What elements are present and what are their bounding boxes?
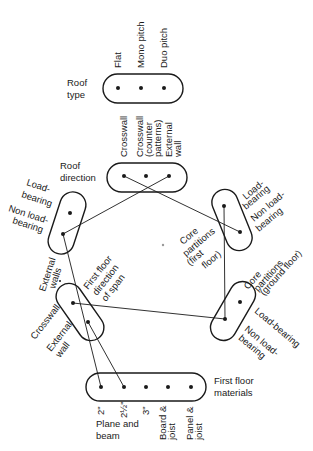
compatibility-diagram: Flat Mono pitch Duo pitch Roof type Cros… [0,0,313,451]
option-dot-non-load-bearing [223,317,227,321]
materials-option-2half-in: 2½" [118,401,129,418]
option-dot-flat [116,86,120,90]
center-speck [162,244,164,246]
option-dot-mono-pitch [139,86,143,90]
roof-type-title: Roof [67,77,87,88]
roof-direction-title-2: direction [60,172,96,183]
option-dot-crosswall-counter [144,174,148,178]
stray-dot [59,280,61,282]
link-core-first-to-core-ground [224,206,225,319]
node-roof-type: Flat Mono pitch Duo pitch Roof type [67,22,183,103]
option-dot-3in [144,385,148,389]
option-dot-non-load-bearing [61,232,65,236]
materials-option-3in: 3" [140,406,151,415]
option-dot-load-bearing [68,211,72,215]
option-dot-2half-in [122,385,126,389]
node-first-floor-materials: 2" 2½" 3" Board & joist Panel & joist Pl… [86,373,254,441]
materials-group-label: Plane and [96,418,139,429]
link-roofdir-crosswall-to-core-first [124,176,240,232]
option-dot-crosswall [71,301,75,305]
link-span-external-to-materials-2half [88,322,124,387]
node-core-ground-floor: Load-bearing Non load- bearing Core part… [206,248,304,361]
materials-group-label-2: beam [96,430,120,441]
roof-type-option-duo-pitch: Duo pitch [158,28,169,68]
roof-direction-option-crosswall-counter-3: patterns) [152,120,163,158]
roof-type-title-2: type [67,89,85,100]
materials-title: First floor [214,375,254,386]
option-dot-load-bearing [238,300,242,304]
option-dot-non-load-bearing [238,230,242,234]
materials-option-2in: 2" [95,406,106,415]
option-dot-duo-pitch [162,86,166,90]
core-first-title-4: floor) [199,248,223,270]
roof-direction-option-crosswall: Crosswall [118,116,129,157]
node-roof-direction: Crosswall Crosswall (counter patterns) E… [60,116,187,192]
roof-direction-option-external-wall-2: wall [172,141,183,158]
option-dot-board-joist [166,385,170,389]
node-core-first-floor: Load- bearing Non load- bearing Core par… [177,177,287,270]
option-dot-external-wall [86,320,90,324]
option-dot-2in [99,385,103,389]
roof-type-option-flat: Flat [112,52,123,68]
materials-option-panel-sub: joist [193,423,204,441]
node-external-walls: Load- bearing Non load- bearing External… [7,176,89,292]
roof-type-capsule [103,74,183,103]
option-dot-load-bearing [222,204,226,208]
option-dot-panel-joist [189,385,193,389]
materials-title-2: materials [214,387,253,398]
option-dot-external-wall [167,174,171,178]
materials-option-board-sub: joist [166,423,177,441]
link-roofdir-external-to-ext-walls [63,176,169,234]
option-dot-crosswall [122,174,126,178]
roof-type-option-mono-pitch: Mono pitch [135,22,146,68]
roof-direction-title: Roof [60,160,80,171]
